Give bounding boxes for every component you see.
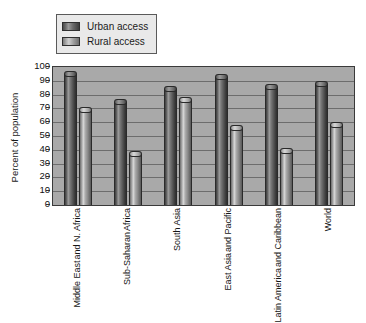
x-axis-labels: Middle Eastand N. AfricaSub-SaharanAfric… [52, 208, 355, 296]
bar-body [79, 110, 92, 205]
x-axis-label-line: and N. Africa [72, 208, 83, 260]
bar-cap [315, 81, 328, 87]
y-tick-mark [46, 121, 50, 122]
bar-body [280, 151, 293, 205]
y-tick-label: 0 [4, 199, 50, 209]
bar-cap [330, 122, 343, 128]
bar-cap [114, 99, 127, 105]
y-tick-mark [46, 135, 50, 136]
x-axis-label: South Asia [172, 208, 196, 296]
x-axis-label-line: East Asia [223, 253, 234, 291]
gridline [53, 81, 354, 82]
y-tick-label: 90 [4, 75, 50, 85]
x-axis-label: East Asiaand Pacific [223, 208, 247, 296]
bar-body [330, 125, 343, 205]
gridline [53, 191, 354, 192]
bar-cap [64, 71, 77, 77]
y-tick-mark [46, 80, 50, 81]
x-axis-label: World [323, 208, 347, 296]
x-axis-label-line: Africa [122, 208, 133, 231]
x-axis-label-line: World [323, 208, 334, 231]
x-axis-label-line: and Pacific [223, 208, 234, 252]
bar-body [129, 154, 142, 205]
bar-body [315, 84, 328, 205]
bar-cap [179, 97, 192, 103]
y-tick-mark [46, 94, 50, 95]
x-axis-label-line: South Asia [172, 208, 183, 251]
x-axis-label: Middle Eastand N. Africa [72, 208, 96, 296]
bar-body [215, 77, 228, 205]
gridline [53, 177, 354, 178]
legend-item-rural: Rural access [62, 34, 148, 49]
x-axis-label-line: Middle East [72, 261, 83, 308]
bar-body [164, 89, 177, 205]
y-tick-label: 40 [4, 144, 50, 154]
gridline [53, 136, 354, 137]
gridline [53, 108, 354, 109]
gridline [53, 164, 354, 165]
bar-cap [79, 107, 92, 113]
bar-cap [230, 125, 243, 131]
bar-cap [164, 86, 177, 92]
bar-urban [315, 81, 328, 205]
legend-swatch-rural-icon [62, 37, 80, 46]
y-tick-label: 20 [4, 171, 50, 181]
y-tick-label: 70 [4, 102, 50, 112]
x-axis-label: Latin Americaand Caribbean [273, 208, 297, 296]
bar-urban [265, 84, 278, 205]
bar-urban [215, 74, 228, 205]
legend-label-urban: Urban access [87, 22, 148, 32]
bar-rural [129, 151, 142, 205]
legend-label-rural: Rural access [87, 37, 145, 47]
bar-body [64, 74, 77, 205]
gridline [53, 95, 354, 96]
y-tick-mark [46, 163, 50, 164]
x-axis-label-line: Latin America [273, 268, 284, 323]
y-tick-mark [46, 204, 50, 205]
y-tick-label: 30 [4, 158, 50, 168]
bar-cap [280, 148, 293, 154]
y-tick-label: 100 [4, 61, 50, 71]
bar-rural [330, 122, 343, 205]
gridline [53, 150, 354, 151]
bar-body [265, 87, 278, 205]
x-axis-label: Sub-SaharanAfrica [122, 208, 146, 296]
bar-rural [179, 97, 192, 205]
bar-urban [114, 99, 127, 205]
bar-cap [215, 74, 228, 80]
y-tick-label: 80 [4, 89, 50, 99]
y-tick-mark [46, 107, 50, 108]
gridline [53, 122, 354, 123]
plot-area [52, 66, 355, 206]
y-tick-mark [46, 66, 50, 67]
bar-rural [280, 148, 293, 205]
y-tick-mark [46, 176, 50, 177]
y-axis-ticks: 0102030405060708090100 [0, 66, 50, 206]
chart-legend: Urban access Rural access [56, 14, 157, 54]
y-tick-mark [46, 149, 50, 150]
bar-body [230, 128, 243, 205]
bar-body [179, 100, 192, 205]
y-tick-label: 50 [4, 130, 50, 140]
y-tick-mark [46, 190, 50, 191]
bar-urban [164, 86, 177, 205]
bar-rural [79, 107, 92, 205]
legend-item-urban: Urban access [62, 19, 148, 34]
bar-cap [265, 84, 278, 90]
x-axis-label-line: and Caribbean [273, 208, 284, 267]
legend-swatch-urban-icon [62, 22, 80, 31]
bar-body [114, 102, 127, 205]
bar-urban [64, 71, 77, 205]
bar-rural [230, 125, 243, 205]
y-tick-label: 10 [4, 185, 50, 195]
x-axis-label-line: Sub-Saharan [122, 232, 133, 285]
y-tick-label: 60 [4, 116, 50, 126]
bar-cap [129, 151, 142, 157]
